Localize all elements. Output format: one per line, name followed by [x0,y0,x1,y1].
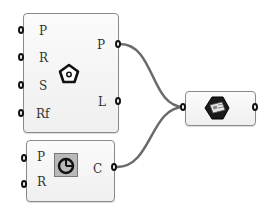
output-port-c[interactable] [111,163,117,171]
input-label-r: R [37,176,46,188]
input-port-r[interactable] [21,180,27,188]
input-label-p: P [39,25,47,37]
output-port-p[interactable] [115,40,121,48]
wire-circle-to-param[interactable] [117,107,184,167]
input-port-r[interactable] [18,53,24,61]
output-label-c: C [93,163,102,175]
param-input-port[interactable] [180,103,186,111]
wire-polygon-to-param[interactable] [120,44,184,107]
hexagon-document-icon [204,95,230,121]
input-label-rf: Rf [36,108,49,120]
pentagon-icon [58,63,80,85]
input-label-r: R [39,52,48,64]
param-output-port[interactable] [252,103,258,111]
input-port-p[interactable] [21,154,27,162]
input-label-s: S [39,80,47,92]
input-port-rf[interactable] [18,109,24,117]
output-port-l[interactable] [115,97,121,105]
polygon-component[interactable]: P R S Rf P L [23,13,119,133]
input-label-p: P [37,151,45,163]
param-component[interactable] [185,91,256,126]
circle-component[interactable]: P R C [26,140,115,202]
input-port-p[interactable] [18,26,24,34]
input-port-s[interactable] [18,81,24,89]
circle-icon [55,154,77,176]
output-label-l: L [98,96,106,108]
circle-icon-frame [54,153,78,177]
output-label-p: P [97,39,105,51]
